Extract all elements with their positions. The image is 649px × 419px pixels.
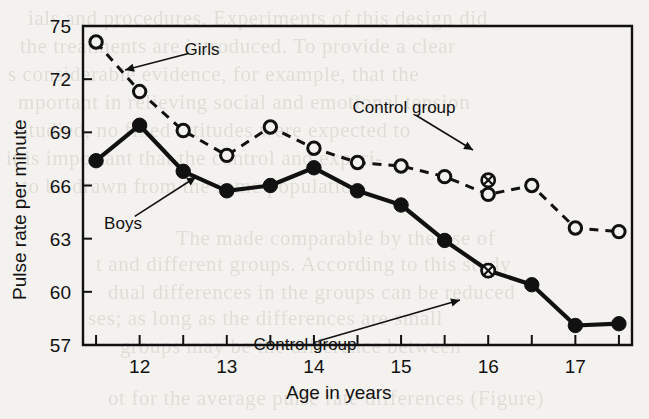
- x-tick-label: 14: [303, 356, 325, 377]
- y-tick-label: 69: [50, 122, 71, 143]
- data-point-boys: [525, 278, 539, 292]
- data-point-boys: [612, 317, 626, 331]
- annotation-label-control-boys: Control group: [253, 335, 356, 354]
- data-point-boys: [350, 184, 364, 198]
- y-tick-label: 75: [50, 16, 71, 37]
- y-tick-label: 57: [50, 335, 71, 356]
- data-point-boys: [220, 184, 234, 198]
- annotation-leader-control-girls: [416, 115, 473, 150]
- series-markers-girls: [90, 36, 625, 238]
- data-point-girls: [264, 121, 276, 133]
- data-point-girls: [482, 188, 494, 200]
- data-point-boys: [263, 178, 277, 192]
- pulse-rate-chart: 57606366697275 121314151617 Pulse rate p…: [0, 0, 649, 419]
- x-tick-label: 12: [129, 356, 150, 377]
- control-group-marker-boys: [482, 264, 495, 277]
- x-axis-tick-labels: 121314151617: [129, 356, 586, 377]
- data-point-girls: [90, 36, 102, 48]
- x-tick-label: 13: [216, 356, 237, 377]
- data-point-boys: [307, 161, 321, 175]
- y-tick-label: 66: [50, 176, 71, 197]
- annotation-labels: GirlsBoysControl groupControl group: [104, 40, 455, 354]
- data-point-girls: [351, 156, 363, 168]
- annotation-label-control-girls: Control group: [352, 98, 455, 117]
- data-point-girls: [569, 222, 581, 234]
- data-point-girls: [308, 142, 320, 154]
- series-line-girls: [96, 42, 619, 232]
- x-tick-label: 15: [391, 356, 412, 377]
- y-axis-tick-labels: 57606366697275: [50, 16, 71, 356]
- data-point-boys: [132, 118, 146, 132]
- control-group-marker-girls: [482, 174, 495, 187]
- x-axis-title: Age in years: [286, 382, 392, 403]
- series-markers-boys: [89, 118, 626, 333]
- y-axis-ticks: [83, 79, 92, 292]
- annotation-leader-girls: [125, 54, 188, 72]
- data-point-boys: [176, 164, 190, 178]
- y-tick-label: 72: [50, 69, 71, 90]
- data-point-girls: [395, 160, 407, 172]
- y-tick-label: 63: [50, 229, 71, 250]
- x-tick-label: 16: [478, 356, 499, 377]
- x-axis-ticks: [96, 335, 619, 345]
- annotation-leader-boys: [135, 177, 196, 216]
- data-point-girls: [526, 179, 538, 191]
- data-point-boys: [437, 233, 451, 247]
- data-point-girls: [133, 85, 145, 97]
- y-tick-label: 60: [50, 282, 71, 303]
- data-point-girls: [221, 149, 233, 161]
- chart-canvas: 57606366697275 121314151617 Pulse rate p…: [0, 0, 649, 419]
- annotation-label-girls: Girls: [185, 40, 220, 59]
- data-point-girls: [438, 170, 450, 182]
- data-point-boys: [89, 153, 103, 167]
- x-tick-label: 17: [565, 356, 586, 377]
- y-axis-title: Pulse rate per minute: [9, 119, 30, 300]
- data-point-girls: [177, 124, 189, 136]
- annotation-label-boys: Boys: [104, 214, 142, 233]
- data-point-boys: [394, 198, 408, 212]
- data-point-girls: [613, 225, 625, 237]
- annotation-leader-lines: [125, 54, 473, 342]
- data-point-boys: [568, 318, 582, 332]
